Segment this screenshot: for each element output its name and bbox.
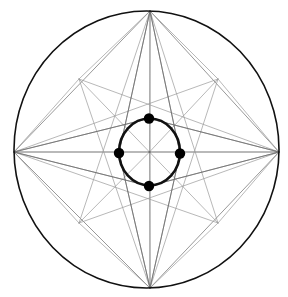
inner-point-top: [144, 113, 154, 123]
center-point-marker: [148, 151, 150, 153]
diagram-root: [0, 0, 288, 297]
inner-point-right: [175, 148, 185, 158]
diagram-background: [0, 0, 288, 297]
inner-point-bottom: [144, 181, 154, 191]
inner-point-left: [114, 148, 124, 158]
geometric-construction-diagram: [0, 0, 288, 297]
